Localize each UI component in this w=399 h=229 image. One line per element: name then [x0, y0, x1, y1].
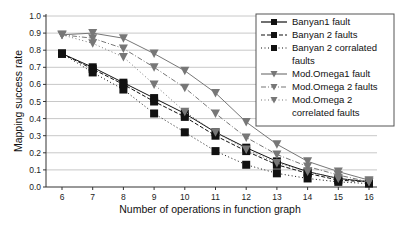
legend-label: Banyan1 fault	[292, 16, 350, 27]
y-tick: 0.7	[29, 62, 41, 72]
x-tick-labels: 678910111213141516	[60, 192, 374, 202]
legend-label: Mod.Omega 2 faults	[292, 81, 378, 92]
y-tick-labels: 0.00.10.20.30.40.50.60.70.80.91.0	[29, 11, 41, 192]
x-tick: 13	[272, 192, 282, 202]
triangle-marker	[242, 133, 251, 142]
square-marker	[271, 19, 277, 25]
square-marker	[273, 169, 281, 177]
y-tick: 0.5	[29, 97, 41, 107]
x-tick: 8	[121, 192, 126, 202]
y-tick: 0.2	[29, 148, 41, 158]
triangle-marker	[242, 118, 251, 127]
y-axis-label: Mapping success rate	[12, 50, 24, 152]
legend: Banyan1 faultBanyan 2 faultsBanyan 2 cor…	[256, 14, 394, 126]
triangle-marker	[150, 50, 159, 59]
x-tick: 14	[303, 192, 313, 202]
square-marker	[119, 86, 127, 94]
triangle-marker	[119, 44, 128, 53]
triangle-marker	[88, 39, 97, 48]
y-tick: 0.8	[29, 45, 41, 55]
square-marker	[89, 68, 97, 76]
triangle-marker	[119, 34, 128, 43]
y-tick: 0.9	[29, 28, 41, 38]
legend-label: Mod.Omega1 fault	[292, 68, 371, 79]
chart: 0.00.10.20.30.40.50.60.70.80.91.0 678910…	[0, 0, 399, 229]
triangle-marker	[272, 140, 281, 149]
x-tick: 10	[180, 192, 190, 202]
x-axis-label: Number of operations in function graph	[119, 203, 301, 215]
square-marker	[271, 45, 277, 51]
triangle-marker	[211, 109, 220, 118]
square-marker	[150, 98, 158, 106]
square-marker	[58, 50, 66, 58]
y-tick: 0.6	[29, 79, 41, 89]
x-tick: 12	[241, 192, 251, 202]
legend-label: Banyan 2 faults	[292, 29, 358, 40]
triangle-marker	[180, 67, 189, 76]
square-marker	[271, 32, 277, 38]
x-tick: 11	[211, 192, 220, 202]
y-tick: 1.0	[29, 11, 41, 21]
square-marker	[181, 128, 189, 136]
square-marker	[212, 147, 220, 155]
x-tick: 7	[90, 192, 95, 202]
triangle-marker	[119, 53, 128, 62]
y-tick: 0.3	[29, 131, 41, 141]
x-tick: 15	[334, 192, 344, 202]
y-tick: 0.0	[29, 182, 41, 192]
square-marker	[242, 161, 250, 169]
legend-label: Banyan 2 corralated	[292, 42, 377, 53]
square-marker	[150, 109, 158, 117]
legend-label: faults	[292, 55, 315, 66]
y-tick: 0.4	[29, 114, 41, 124]
y-tick: 0.1	[29, 165, 41, 175]
legend-label: Mod.Omega 2	[292, 94, 352, 105]
x-tick: 6	[60, 192, 65, 202]
x-tick: 9	[152, 192, 157, 202]
legend-label: correlated faults	[292, 107, 360, 118]
x-tick: 16	[364, 192, 374, 202]
